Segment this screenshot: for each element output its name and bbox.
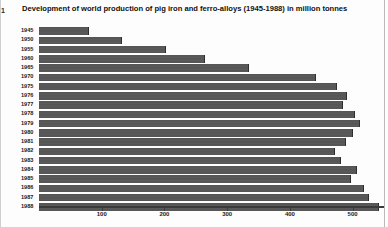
bar [39,83,337,90]
bar-row: 1975 [0,83,388,92]
y-axis-tick-label: 1945 [21,27,38,34]
bar [39,129,353,136]
bar-row: 1970 [0,73,388,82]
bar [39,185,364,192]
y-axis-tick-label: 1979 [21,120,38,127]
x-axis: 100200300400500 [0,206,388,227]
y-axis-tick-label: 1976 [21,92,38,99]
bar [39,138,346,145]
bar-row: 1960 [0,55,388,64]
y-axis-tick-label: 1950 [21,36,38,43]
bar-row: 1955 [0,46,388,55]
y-axis-tick-label: 1986 [21,184,38,191]
x-axis-tick-label: 500 [348,211,358,217]
bar-row: 1976 [0,92,388,101]
bar [39,37,122,44]
bar-row: 1984 [0,166,388,175]
bar-row: 1987 [0,194,388,203]
bar [39,55,205,62]
bar [39,120,360,127]
y-axis-tick-label: 1987 [21,194,38,201]
y-axis-tick-label: 1960 [21,55,38,62]
bar-row: 1985 [0,175,388,184]
y-axis-tick-label: 1984 [21,166,38,173]
bar [39,92,347,99]
bar-row: 1950 [0,36,388,45]
bar-row: 1965 [0,64,388,73]
x-axis-line [39,206,384,208]
y-axis-tick-label: 1977 [21,101,38,108]
bar [39,175,351,182]
y-axis-tick-label: 1965 [21,64,38,71]
bar [39,74,316,81]
bar [39,148,335,155]
y-axis-tick-label: 1982 [21,147,38,154]
x-axis-tick-label: 100 [97,211,107,217]
figure-container: 1 Development of world production of pig… [0,0,388,227]
y-axis-tick-label: 1981 [21,138,38,145]
bar [39,194,369,201]
bar [39,101,343,108]
bar-row: 1945 [0,27,388,36]
bar [39,111,355,118]
x-axis-tick-label: 200 [159,211,169,217]
bar-row: 1982 [0,147,388,156]
plot-area: 1945195019551960196519701975197619771978… [0,27,388,212]
y-axis-tick-label: 1955 [21,46,38,53]
bar-row: 1986 [0,184,388,193]
y-axis-tick-label: 1975 [21,83,38,90]
y-axis-tick-label: 1980 [21,129,38,136]
bar [39,64,249,71]
bar [39,27,89,34]
y-axis-tick-label: 1970 [21,73,38,80]
bar [39,166,357,173]
y-axis-tick-label: 1985 [21,175,38,182]
y-axis-tick-label: 1983 [21,157,38,164]
bar-row: 1983 [0,157,388,166]
x-axis-tick-label: 400 [285,211,295,217]
x-axis-tick-label: 300 [222,211,232,217]
figure-number: 1 [1,7,5,14]
bar-row: 1981 [0,138,388,147]
bar-row: 1980 [0,129,388,138]
bar-row: 1978 [0,110,388,119]
bar [39,46,166,53]
bar [39,157,341,164]
bar-row: 1977 [0,101,388,110]
bar-row: 1979 [0,120,388,129]
chart-title: Development of world production of pig i… [22,4,347,13]
y-axis-tick-label: 1978 [21,110,38,117]
